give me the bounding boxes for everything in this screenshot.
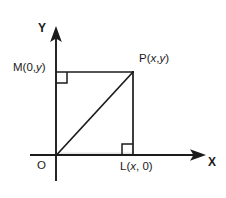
point-label-M: M(0,y)	[13, 62, 46, 74]
segment-OP	[57, 72, 134, 155]
origin-label: O	[37, 160, 46, 172]
point-label-M-name: M	[13, 61, 23, 73]
coordinate-diagram: Y X O M(0,y) P(x,y) L(x, 0)	[0, 0, 226, 198]
right-angle-mark-at-M	[56, 72, 67, 83]
point-label-M-open: (0,	[23, 61, 36, 73]
point-label-P-close: )	[165, 52, 169, 64]
point-label-L-close: , 0)	[136, 160, 153, 172]
point-label-M-close: )	[42, 61, 46, 73]
y-axis-label: Y	[38, 22, 46, 34]
x-axis-label: X	[208, 156, 216, 168]
point-label-P-name: P	[139, 52, 147, 64]
geometry-drawing	[0, 0, 226, 198]
point-label-L: L(x, 0)	[120, 161, 153, 173]
point-label-P: P(x,y)	[139, 53, 169, 65]
